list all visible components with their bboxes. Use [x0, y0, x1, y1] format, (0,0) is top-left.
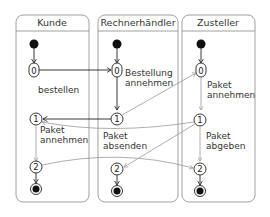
state-zusteller-0: 0 — [196, 63, 206, 77]
state-kunde-2: 2 — [30, 161, 42, 173]
label-zust-annehmen: annehmen — [207, 90, 255, 100]
label-zust-paket: Paket — [207, 80, 232, 90]
sequence-diagram: Kunde Rechnerhändler Zusteller 0 0 0 bes… — [0, 0, 270, 217]
svg-text:1: 1 — [197, 115, 202, 125]
label-kunde-annehmen: annehmen — [40, 135, 88, 145]
state-rechner-1: 1 — [111, 113, 123, 125]
end-node-kunde — [31, 184, 42, 195]
state-kunde-1: 1 — [30, 113, 42, 125]
svg-text:2: 2 — [114, 164, 119, 174]
state-zusteller-1: 1 — [194, 114, 206, 126]
state-kunde-0: 0 — [29, 63, 39, 77]
label-bestellung-annehmen: annehmen — [125, 78, 173, 88]
label-bestellen: bestellen — [38, 85, 79, 95]
svg-text:2: 2 — [33, 162, 38, 172]
svg-text:0: 0 — [31, 66, 36, 76]
svg-text:0: 0 — [198, 66, 203, 76]
svg-text:1: 1 — [33, 114, 38, 124]
label-rechner-absenden: absenden — [103, 141, 147, 151]
label-zust-abgeben-paket: Paket — [206, 131, 231, 141]
lane-kunde: Kunde — [16, 15, 89, 202]
lane-rechnerhaendler: Rechnerhändler — [98, 15, 178, 202]
state-zusteller-2: 2 — [194, 163, 206, 175]
end-node-zusteller — [195, 186, 206, 197]
state-rechner-0: 0 — [112, 63, 122, 77]
start-node-zusteller — [197, 40, 206, 49]
lane-zusteller: Zusteller — [182, 15, 255, 202]
lane-title-rechnerhaendler: Rechnerhändler — [100, 17, 175, 28]
lane-title-kunde: Kunde — [37, 17, 67, 28]
svg-text:0: 0 — [114, 66, 119, 76]
label-zust-abgeben: abgeben — [206, 141, 245, 151]
label-rechner-paket: Paket — [103, 131, 128, 141]
label-kunde-paket: Paket — [40, 125, 65, 135]
end-node-rechner — [112, 186, 123, 197]
svg-text:2: 2 — [197, 164, 202, 174]
state-rechner-2: 2 — [111, 163, 123, 175]
svg-text:1: 1 — [114, 114, 119, 124]
start-node-rechner — [113, 40, 122, 49]
label-bestellung: Bestellung — [125, 68, 173, 78]
start-node-kunde — [30, 40, 39, 49]
lane-title-zusteller: Zusteller — [197, 17, 239, 28]
